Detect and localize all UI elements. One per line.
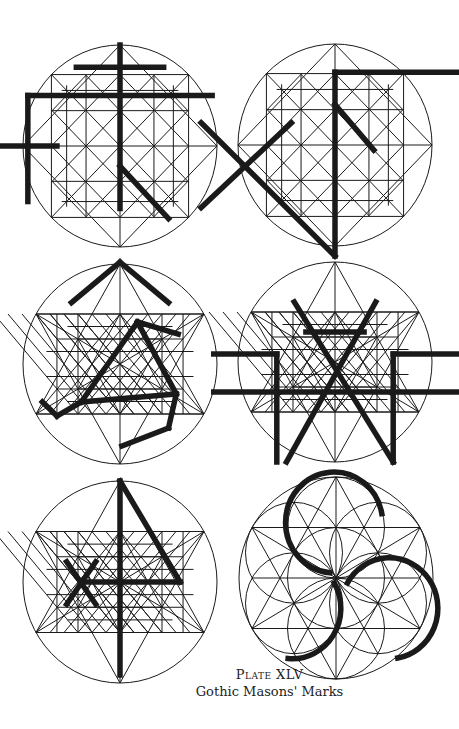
plate-title: Gothic Masons' Marks xyxy=(40,684,459,699)
mark-6-triple-arc xyxy=(239,472,438,679)
plate-number: Plate XLV xyxy=(40,667,459,682)
mark-3-triangle-hook xyxy=(0,264,217,464)
mark-1-cross xyxy=(0,45,217,303)
mark-2-x-flag xyxy=(201,44,459,256)
mark-5-four-arrow xyxy=(0,481,217,683)
mason-mark xyxy=(286,472,438,659)
construction-lines xyxy=(239,477,433,679)
mark-4-woven-w xyxy=(209,262,456,462)
construction-lines xyxy=(209,262,432,462)
mason-mark xyxy=(201,72,459,256)
plate-illustration xyxy=(0,0,459,729)
mason-mark xyxy=(42,322,178,446)
